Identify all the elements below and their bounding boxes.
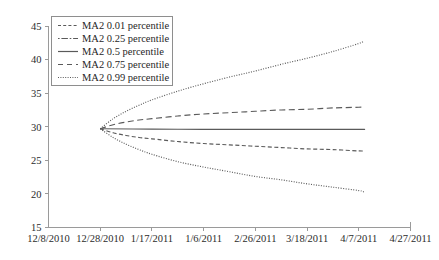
y-tick-label: 25 (31, 155, 42, 166)
x-tick-label: 2/26/2011 (234, 233, 276, 244)
legend-item: MA2 0.5 percentile (57, 45, 168, 58)
y-tick-label: 20 (31, 189, 42, 200)
series-line (100, 129, 364, 192)
series-line (100, 129, 364, 151)
legend-label-p99: MA2 0.99 percentile (82, 72, 169, 84)
legend-item: MA2 0.75 percentile (57, 58, 168, 71)
legend-item: MA2 0.99 percentile (57, 71, 168, 84)
legend-swatch-solid-icon (57, 46, 79, 57)
chart-legend: MA2 0.01 percentile MA2 0.25 percentile … (51, 16, 173, 86)
legend-swatch-dotted-icon (57, 72, 79, 83)
legend-swatch-long-dash-icon (57, 59, 79, 70)
chart-container: 15202530354045 12/8/201012/28/20101/17/2… (0, 0, 439, 260)
legend-swatch-short-dash-icon (57, 20, 79, 31)
x-tick-label: 12/8/2010 (27, 233, 70, 244)
x-axis-ticks: 12/8/201012/28/20101/17/20111/6/20112/26… (27, 228, 431, 244)
legend-swatch-dash-dot-icon (57, 33, 79, 44)
y-tick-label: 45 (31, 21, 42, 32)
legend-label-p50: MA2 0.5 percentile (82, 46, 164, 58)
x-tick-label: 4/27/2011 (389, 233, 431, 244)
legend-item: MA2 0.01 percentile (57, 19, 168, 32)
legend-label-p75: MA2 0.75 percentile (82, 59, 169, 71)
y-tick-label: 30 (31, 122, 42, 133)
x-tick-label: 12/28/2010 (76, 233, 124, 244)
legend-item: MA2 0.25 percentile (57, 32, 168, 45)
y-tick-label: 40 (31, 54, 42, 65)
series-line (100, 129, 364, 130)
x-tick-label: 3/18/2011 (286, 233, 328, 244)
x-tick-label: 1/17/2011 (131, 233, 173, 244)
legend-label-p01: MA2 0.01 percentile (82, 20, 169, 32)
y-tick-label: 35 (31, 88, 42, 99)
legend-label-p25: MA2 0.25 percentile (82, 33, 169, 45)
x-tick-label: 4/7/2011 (340, 233, 377, 244)
x-tick-label: 1/6/2011 (185, 233, 222, 244)
y-axis-ticks: 15202530354045 (31, 21, 49, 234)
series-line (100, 107, 364, 129)
